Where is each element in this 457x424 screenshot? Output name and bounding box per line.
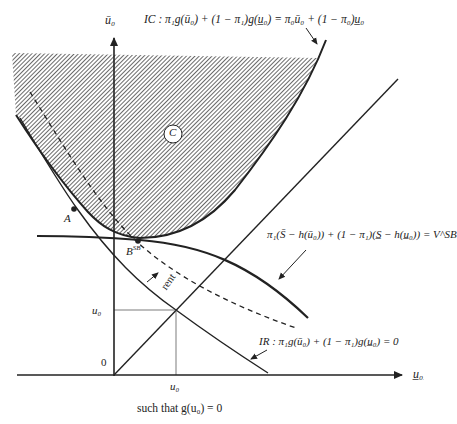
rent-arrow: [147, 273, 158, 282]
u0-x-tick: u₀: [170, 380, 179, 392]
point-bsb-main: B: [126, 245, 133, 257]
y-axis-label: ū₀: [105, 13, 115, 28]
point-a-marker: [71, 206, 77, 212]
x-axis-label: u̲₀: [413, 367, 423, 382]
u0-y-tick: u₀: [92, 304, 101, 316]
vsb-pointer-arrow: [279, 250, 306, 279]
ic-equation: IC : π₁g(ū₀) + (1 − π₁)g(u̲₀) = π₀ū₀ + (…: [144, 13, 364, 25]
ic-pointer-arrow: [306, 28, 317, 44]
point-a-label: A: [64, 212, 71, 224]
ir-pointer-arrow: [251, 350, 267, 359]
region-c-label: C: [169, 126, 176, 138]
point-bsb-sup: SB: [133, 244, 141, 252]
origin-label: 0: [101, 356, 107, 368]
caption: such that g(u₀) = 0: [137, 402, 222, 414]
point-bsb-marker: [135, 238, 141, 244]
point-bsb-label: BSB: [126, 244, 141, 257]
ir-equation: IR : π₁g(ū₀) + (1 − π₁)g(u̲₀) = 0: [259, 335, 399, 347]
vsb-equation: π₁(S̄ − h(ū₀)) + (1 − π₁)(S̲ − h(u̲₀)) =…: [267, 228, 457, 240]
